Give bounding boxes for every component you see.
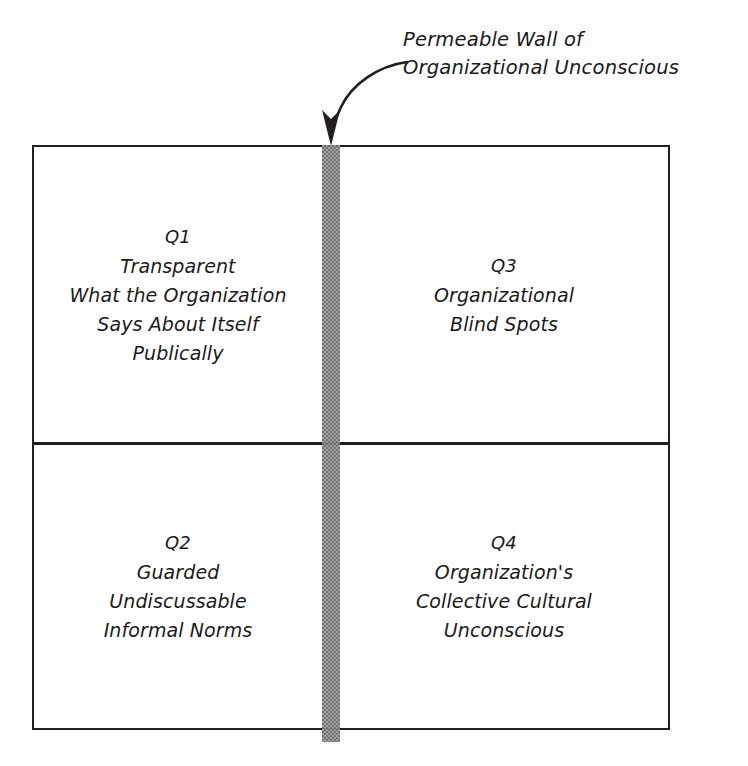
- quadrant-q4-label: Q4: [491, 528, 517, 557]
- quadrant-q3-line-2: Blind Spots: [450, 310, 558, 339]
- quadrant-q1-line-4: Publically: [132, 339, 223, 368]
- permeable-wall-band: [322, 145, 340, 742]
- annotation-line-1: Permeable Wall of: [403, 26, 733, 54]
- quadrant-q2: Q2 Guarded Undiscussable Informal Norms: [34, 445, 322, 728]
- quadrant-q2-line-2: Undiscussable: [109, 587, 246, 616]
- diagram-canvas: Permeable Wall of Organizational Unconsc…: [0, 0, 748, 766]
- quadrant-q1-label: Q1: [165, 222, 191, 251]
- quadrant-q1-line-3: Says About Itself: [97, 310, 258, 339]
- annotation-callout: Permeable Wall of Organizational Unconsc…: [403, 26, 733, 82]
- quadrant-q4-line-2: Collective Cultural: [416, 587, 592, 616]
- quadrant-q3-label: Q3: [491, 251, 517, 280]
- quadrant-q3-line-1: Organizational: [434, 281, 574, 310]
- quadrant-q3: Q3 Organizational Blind Spots: [340, 147, 668, 442]
- quadrant-q4: Q4 Organization's Collective Cultural Un…: [340, 445, 668, 728]
- quadrant-q4-line-1: Organization's: [435, 558, 573, 587]
- annotation-line-2: Organizational Unconscious: [403, 54, 733, 82]
- quadrant-q2-label: Q2: [165, 528, 191, 557]
- quadrant-q1: Q1 Transparent What the Organization Say…: [34, 147, 322, 442]
- quadrant-q1-line-1: Transparent: [120, 252, 235, 281]
- quadrant-q2-line-1: Guarded: [137, 558, 220, 587]
- quadrant-q1-line-2: What the Organization: [69, 281, 286, 310]
- quadrant-q2-line-3: Informal Norms: [104, 616, 253, 645]
- quadrant-q4-line-3: Unconscious: [444, 616, 564, 645]
